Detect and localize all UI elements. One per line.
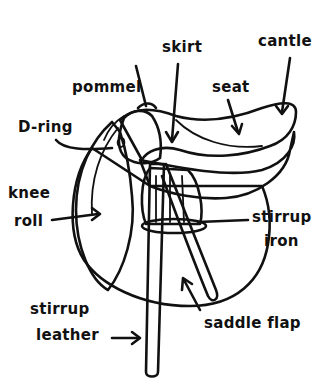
line-stirrup-iron [198,220,248,222]
label-cantle: cantle [258,32,312,50]
label-stirrup-leather-2: leather [36,326,99,344]
label-knee: knee [8,184,50,202]
line-d-ring [56,140,112,149]
label-d-ring: D-ring [18,118,73,136]
label-seat: seat [212,78,250,96]
skirt-shape [104,111,161,163]
saddle-diagram: cantle skirt pommel seat D-ring knee rol… [0,0,336,392]
label-stirrup-iron-1: stirrup [252,208,312,226]
label-saddle-flap: saddle flap [204,314,301,332]
label-pommel: pommel [72,78,141,96]
stirrup-iron-shape [142,168,206,233]
label-stirrup-iron-2: iron [264,232,299,250]
arrow-skirt [172,64,178,140]
label-stirrup-leather-1: stirrup [30,300,90,318]
label-skirt: skirt [162,38,202,56]
label-roll: roll [14,212,43,230]
knee-roll-shape [76,122,133,290]
